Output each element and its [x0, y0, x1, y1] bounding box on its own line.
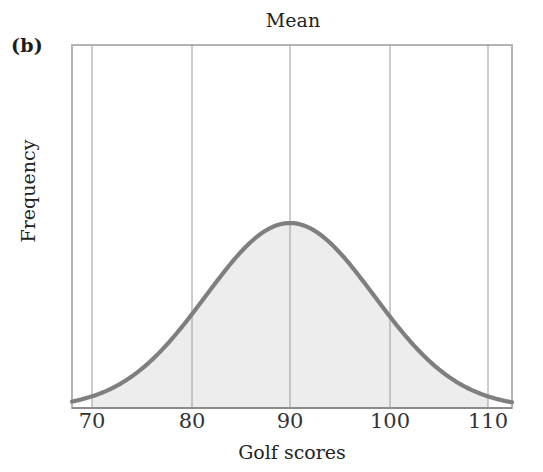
x-tick-label-70: 70	[57, 409, 127, 433]
figure-container: (b) Mean Frequency Golf scores 708090100…	[0, 0, 543, 472]
x-tick-label-80: 80	[157, 409, 227, 433]
normal-curve-plot	[0, 0, 543, 472]
x-tick-label-90: 90	[255, 409, 325, 433]
x-tick-label-100: 100	[355, 409, 425, 433]
x-tick-label-110: 110	[453, 409, 523, 433]
gridlines	[92, 45, 488, 408]
